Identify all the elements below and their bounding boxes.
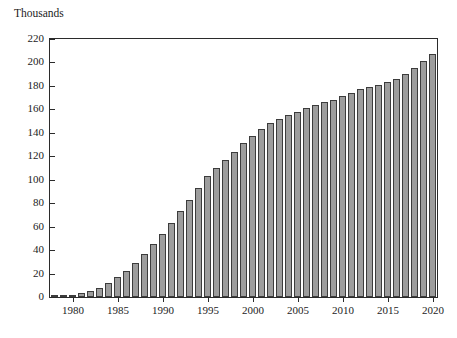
bar xyxy=(159,234,167,297)
bar xyxy=(141,254,149,297)
bar xyxy=(231,152,239,297)
y-axis-tick xyxy=(50,86,55,87)
bar xyxy=(195,188,203,297)
y-axis-tick xyxy=(50,62,55,63)
y-axis-tick-label: 180 xyxy=(4,80,44,91)
y-axis-tick xyxy=(50,156,55,157)
y-axis-tick xyxy=(50,133,55,134)
y-axis-tick-label: 0 xyxy=(4,291,44,302)
y-axis-tick xyxy=(50,109,55,110)
bar xyxy=(258,129,266,297)
bar xyxy=(420,61,428,297)
x-axis-tick-label: 2010 xyxy=(320,304,366,316)
bar xyxy=(294,112,302,297)
bar xyxy=(213,168,221,297)
y-axis-tick xyxy=(50,250,55,251)
bar xyxy=(402,74,410,297)
bar xyxy=(303,108,311,297)
x-axis-tick xyxy=(118,297,119,302)
y-axis-tick xyxy=(50,227,55,228)
plot-area xyxy=(50,39,437,297)
x-axis-tick-label: 1985 xyxy=(95,304,141,316)
bar xyxy=(321,102,329,297)
y-axis-tick-label: 140 xyxy=(4,127,44,138)
x-axis-tick-label: 1980 xyxy=(50,304,96,316)
x-axis-tick-label: 1995 xyxy=(185,304,231,316)
bar xyxy=(177,211,185,297)
bar xyxy=(249,136,257,297)
y-axis-tick-label: 120 xyxy=(4,150,44,161)
x-axis-tick-label: 2005 xyxy=(275,304,321,316)
x-axis-tick-label: 2000 xyxy=(230,304,276,316)
x-axis-tick-label: 2020 xyxy=(410,304,456,316)
x-axis-tick xyxy=(253,297,254,302)
y-axis-tick-label: 80 xyxy=(4,197,44,208)
x-axis-tick-label: 2015 xyxy=(365,304,411,316)
x-axis-tick xyxy=(163,297,164,302)
bar xyxy=(78,293,86,297)
bar xyxy=(348,93,356,297)
plot-frame xyxy=(49,38,438,298)
bar xyxy=(105,283,113,297)
bar xyxy=(150,244,158,297)
y-axis-tick-label: 100 xyxy=(4,174,44,185)
y-axis-tick xyxy=(50,180,55,181)
chart-unit-title: Thousands xyxy=(14,7,64,20)
x-axis-tick-label: 1990 xyxy=(140,304,186,316)
x-axis-tick xyxy=(73,297,74,302)
bar xyxy=(330,100,338,297)
bar xyxy=(429,54,437,297)
bar xyxy=(96,288,104,297)
bar xyxy=(204,176,212,297)
bar xyxy=(393,79,401,297)
y-axis-tick-label: 220 xyxy=(4,33,44,44)
bar xyxy=(60,295,68,297)
x-axis-tick xyxy=(298,297,299,302)
x-axis-tick xyxy=(388,297,389,302)
y-axis-tick-label: 40 xyxy=(4,244,44,255)
bar xyxy=(267,123,275,297)
bar xyxy=(276,119,284,297)
y-axis-tick-label: 20 xyxy=(4,268,44,279)
bar xyxy=(222,160,230,297)
bar xyxy=(384,82,392,297)
bar xyxy=(168,223,176,297)
bar xyxy=(357,89,365,297)
bar xyxy=(87,291,95,297)
y-axis-tick xyxy=(50,297,55,298)
bar xyxy=(123,271,131,297)
bar xyxy=(339,96,347,297)
bar xyxy=(240,143,248,297)
chart-figure: Thousands 020406080100120140160180200220… xyxy=(0,0,457,338)
y-axis-tick-label: 60 xyxy=(4,221,44,232)
bar xyxy=(366,87,374,297)
bar xyxy=(375,85,383,297)
bar xyxy=(114,277,122,297)
y-axis-tick-label: 200 xyxy=(4,56,44,67)
y-axis-tick-label: 160 xyxy=(4,103,44,114)
x-axis-tick xyxy=(433,297,434,302)
bar xyxy=(186,200,194,297)
bar xyxy=(132,263,140,297)
bar xyxy=(411,68,419,297)
x-axis-tick xyxy=(208,297,209,302)
x-axis-tick xyxy=(343,297,344,302)
y-axis-tick xyxy=(50,274,55,275)
bar xyxy=(285,115,293,297)
bar xyxy=(312,105,320,297)
y-axis-tick xyxy=(50,203,55,204)
y-axis-tick xyxy=(50,39,55,40)
